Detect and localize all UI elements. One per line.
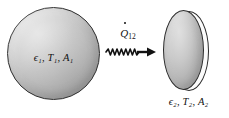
- surface-1-label: ϵ₁, T₁, A₁: [7, 52, 100, 63]
- surface-2-disk: [160, 9, 210, 93]
- q-dot-symbol: Q: [120, 27, 128, 39]
- surface-1-sphere: ϵ₁, T₁, A₁: [7, 7, 100, 100]
- surface-2-label: ϵ₂, T₂, A₂: [148, 96, 229, 107]
- q-letter: Q: [120, 27, 128, 39]
- radiation-exchange-figure: ϵ₁, T₁, A₁ Q12 ϵ₂, T₂, A₂: [0, 0, 229, 118]
- q-subscript: 12: [128, 32, 136, 41]
- disk-front-face: [163, 10, 204, 90]
- overdot-icon: [124, 22, 126, 24]
- heat-flux-label: Q12: [103, 27, 153, 41]
- wavy-arrow-icon: [105, 44, 157, 60]
